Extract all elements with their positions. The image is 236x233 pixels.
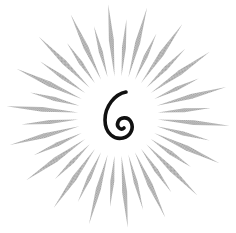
ray — [21, 117, 78, 126]
ray — [106, 4, 117, 76]
ray — [92, 26, 110, 78]
ray — [6, 104, 78, 115]
ray — [126, 154, 145, 210]
ray — [9, 124, 80, 147]
ray — [156, 124, 210, 142]
ray — [158, 106, 211, 115]
ray — [87, 154, 110, 225]
ray — [119, 156, 130, 228]
ray — [30, 91, 80, 108]
number-six-glyph — [93, 86, 143, 146]
ray — [158, 117, 230, 128]
ray — [126, 7, 149, 78]
ray — [119, 19, 128, 76]
ray — [156, 85, 227, 108]
ray — [108, 156, 116, 207]
